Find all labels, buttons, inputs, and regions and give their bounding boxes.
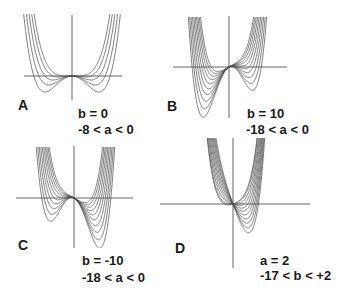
curve — [182, 0, 272, 84]
panel-b-range-a: -18 < a < 0 — [246, 122, 309, 137]
panel-b-param-b: b = 10 — [247, 106, 284, 121]
curve — [32, 0, 121, 205]
curve — [32, 0, 121, 207]
panel-d-letter: D — [175, 240, 185, 256]
panel-c-range-a: -18 < a < 0 — [82, 270, 145, 285]
panel-c-letter: C — [18, 237, 28, 253]
curve — [18, 0, 127, 76]
panel-d-param-a: a = 2 — [260, 253, 289, 268]
panel-a-range-a: -8 < a < 0 — [78, 122, 134, 137]
figure-canvas — [0, 0, 341, 297]
panel-a-letter: A — [18, 97, 28, 113]
panel-a-plot — [18, 0, 127, 100]
panel-d-range-b: -17 < b < +2 — [260, 268, 331, 283]
curve — [18, 0, 127, 80]
panel-c-param-b: b = -10 — [82, 253, 124, 268]
panel-b-letter: B — [167, 98, 177, 114]
panel-a-param-b: b = 0 — [78, 106, 108, 121]
curve — [182, 0, 272, 109]
curve — [18, 0, 127, 77]
panel-b-plot — [173, 0, 287, 118]
